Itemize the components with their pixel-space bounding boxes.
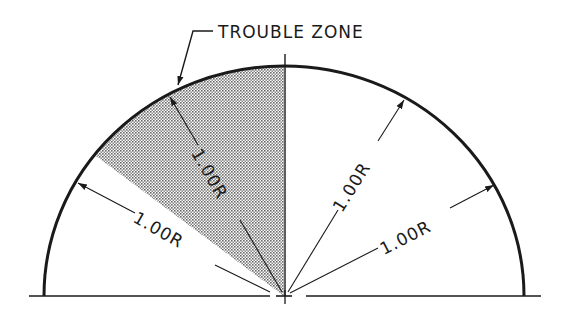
dim-lower-right-label: 1.00R xyxy=(376,216,434,259)
dim-upper-right-line xyxy=(288,210,338,292)
dim-lower-right-arrow xyxy=(450,185,494,208)
dim-upper-right-arrow xyxy=(378,100,404,141)
dim-upper-right-label: 1.00R xyxy=(329,158,375,215)
semicircle-trouble-zone-diagram: TROUBLE ZONE 1.00R 1.00R 1.00R 1.00R xyxy=(0,0,568,325)
trouble-zone-label: TROUBLE ZONE xyxy=(217,22,364,42)
trouble-zone-shading xyxy=(96,66,284,296)
diagram-svg: TROUBLE ZONE 1.00R 1.00R 1.00R 1.00R xyxy=(0,0,568,325)
dim-lower-right-line xyxy=(290,248,378,293)
dim-left-arrow xyxy=(78,183,135,213)
